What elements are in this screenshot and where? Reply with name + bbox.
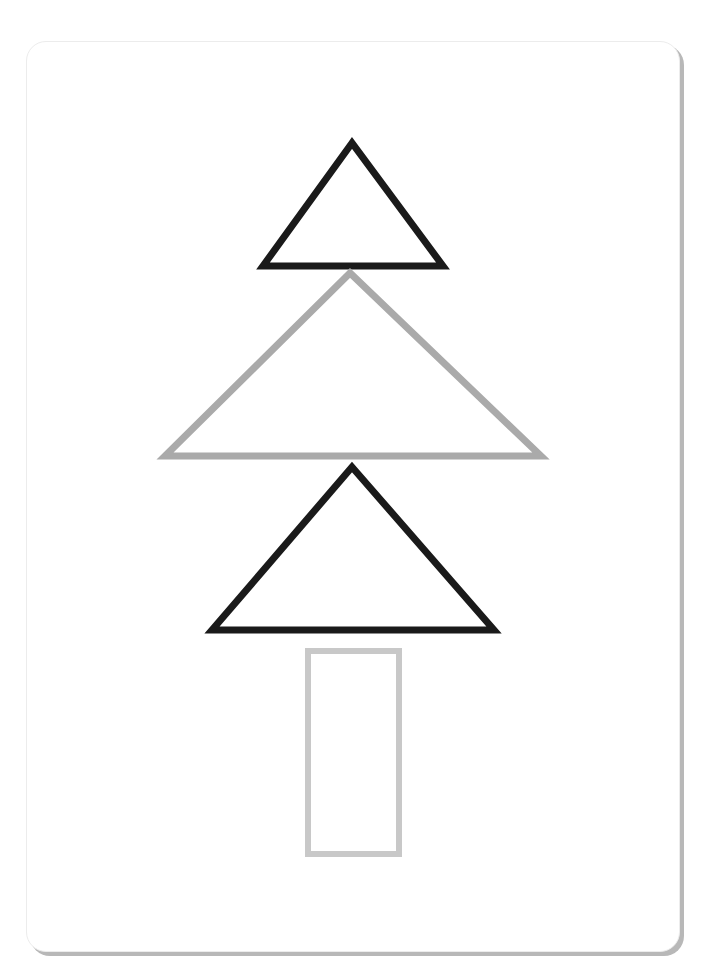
- middle-triangle: [165, 273, 541, 456]
- worksheet-page: [0, 0, 714, 977]
- bottom-triangle: [212, 467, 494, 630]
- top-triangle: [263, 143, 443, 266]
- trunk-rectangle: [308, 651, 399, 854]
- shape-tree-illustration: [0, 0, 714, 977]
